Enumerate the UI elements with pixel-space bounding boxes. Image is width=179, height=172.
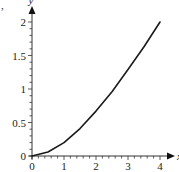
x-axis-arrow-icon (167, 153, 175, 160)
partial-label: , (1, 0, 4, 11)
x-axis-label: x (176, 150, 179, 162)
y-axis-label: y (28, 0, 34, 6)
y-tick-label: 0 (21, 150, 27, 162)
x-tick-label: 3 (125, 160, 131, 172)
x-tick-label: 0 (29, 160, 35, 172)
x-tick-label: 2 (93, 160, 99, 172)
plot-area: ,xy0123400.511.52 (1, 0, 179, 172)
y-tick-label: 1 (21, 83, 27, 95)
chart: ,xy0123400.511.52 (0, 0, 179, 172)
y-axis-arrow-icon (29, 6, 36, 14)
x-tick-label: 4 (157, 160, 163, 172)
y-tick-label: 2 (21, 16, 27, 28)
data-curve (32, 22, 160, 156)
y-tick-label: 1.5 (12, 50, 26, 62)
x-tick-label: 1 (61, 160, 67, 172)
y-tick-label: 0.5 (12, 117, 26, 129)
